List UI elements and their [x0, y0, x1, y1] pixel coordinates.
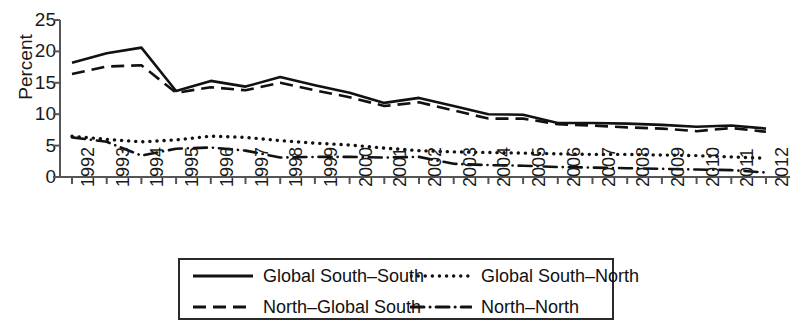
legend-label: Global South–South: [263, 267, 424, 285]
x-tick-label: 1993: [114, 147, 132, 187]
x-tick-label: 1992: [79, 147, 97, 187]
legend-label: North–North: [481, 298, 579, 316]
chart-legend: Global South–South Global South–North No…: [178, 258, 614, 320]
legend-line-sample-solid: [192, 269, 254, 283]
legend-entry-global-south-south[interactable]: Global South–South: [192, 260, 424, 291]
legend-row-1: Global South–South Global South–North: [180, 260, 612, 291]
x-tick-label: 2009: [669, 147, 687, 187]
x-tick-label: 2012: [773, 147, 791, 187]
legend-entry-global-south-north[interactable]: Global South–North: [410, 260, 639, 291]
x-axis-tick-labels: 1992199319941995199619971998199920002001…: [0, 0, 798, 260]
x-tick-label: 1997: [253, 147, 271, 187]
legend-entry-north-north[interactable]: North–North: [410, 291, 579, 322]
legend-row-2: North–Global South North–North: [180, 291, 612, 322]
x-tick-label: 2008: [634, 147, 652, 187]
x-tick-label: 2000: [357, 147, 375, 187]
x-tick-label: 2005: [530, 147, 548, 187]
chart-figure: Percent 0510152025 199219931994199519961…: [0, 0, 798, 326]
legend-label: North–Global South: [263, 298, 421, 316]
legend-line-sample-dashdot: [410, 300, 472, 314]
x-tick-label: 1996: [218, 147, 236, 187]
x-tick-label: 2011: [738, 148, 756, 187]
legend-line-sample-dashed: [192, 300, 254, 314]
x-tick-label: 2003: [461, 147, 479, 187]
x-tick-label: 1999: [322, 147, 340, 187]
legend-entry-north-global-south[interactable]: North–Global South: [192, 291, 421, 322]
x-tick-label: 2001: [391, 147, 409, 187]
legend-label: Global South–North: [481, 267, 639, 285]
legend-line-sample-dotted: [410, 269, 472, 283]
x-tick-label: 2007: [600, 147, 618, 187]
x-tick-label: 2006: [565, 147, 583, 187]
x-tick-label: 1994: [148, 147, 166, 187]
x-tick-label: 1995: [183, 147, 201, 187]
x-tick-label: 2002: [426, 147, 444, 187]
x-tick-label: 2004: [495, 147, 513, 187]
x-tick-label: 1998: [287, 147, 305, 187]
x-tick-label: 2010: [704, 147, 722, 187]
